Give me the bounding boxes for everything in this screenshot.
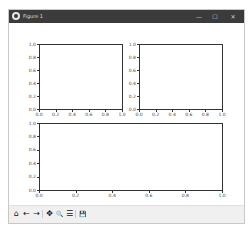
x-tick-mark (39, 110, 40, 112)
y-tick-label: 0.2 (126, 94, 136, 99)
x-tick-label: 0.4 (166, 112, 178, 117)
zoom-magnifier-icon[interactable]: 🔍 (55, 209, 64, 219)
y-tick-mark (37, 136, 39, 137)
x-tick-label: 0.4 (106, 193, 118, 198)
y-tick-mark (37, 83, 39, 84)
y-tick-label: 0.2 (26, 94, 36, 99)
x-tick-label: 0.0 (133, 112, 145, 117)
x-tick-label: 0.0 (33, 112, 45, 117)
minimize-button[interactable]: — (192, 10, 206, 23)
x-tick-label: 1.0 (216, 112, 228, 117)
x-tick-mark (139, 110, 140, 112)
window-title: Figure 1 (23, 12, 43, 20)
x-tick-mark (122, 110, 123, 112)
y-tick-mark (37, 70, 39, 71)
x-tick-mark (189, 110, 190, 112)
axes-top-left[interactable] (39, 44, 123, 110)
x-tick-label: 0.0 (33, 193, 45, 198)
toolbar-separator (42, 210, 43, 218)
y-tick-label: 0.6 (126, 68, 136, 73)
figure-window: Figure 1 — ☐ ✕ 0.00.20.40.60.81.00.00.20… (8, 9, 245, 224)
save-floppy-icon[interactable]: 💾 (78, 209, 87, 219)
y-tick-label: 1.0 (26, 42, 36, 47)
x-tick-label: 0.6 (83, 112, 95, 117)
x-tick-mark (105, 110, 106, 112)
y-tick-mark (37, 57, 39, 58)
matplotlib-app-icon (12, 12, 20, 20)
x-tick-label: 0.6 (143, 193, 155, 198)
x-tick-mark (39, 191, 40, 193)
y-tick-label: 0.8 (26, 134, 36, 139)
x-tick-label: 0.4 (66, 112, 78, 117)
x-tick-mark (156, 110, 157, 112)
y-tick-mark (37, 96, 39, 97)
y-tick-mark (137, 57, 139, 58)
x-tick-label: 1.0 (216, 193, 228, 198)
axes-top-right[interactable] (139, 44, 223, 110)
x-tick-mark (205, 110, 206, 112)
x-tick-mark (89, 110, 90, 112)
y-tick-label: 0.4 (126, 81, 136, 86)
x-tick-label: 0.2 (70, 193, 82, 198)
y-tick-label: 0.2 (26, 174, 36, 179)
x-tick-label: 0.2 (50, 112, 62, 117)
pan-move-icon[interactable]: ✥ (45, 209, 54, 219)
x-tick-mark (149, 191, 150, 193)
toolbar-separator (75, 210, 76, 218)
axes-bottom-wide[interactable] (39, 123, 223, 191)
x-tick-mark (112, 191, 113, 193)
forward-arrow-icon[interactable]: → (32, 209, 41, 219)
y-tick-mark (37, 150, 39, 151)
y-tick-mark (137, 70, 139, 71)
y-tick-label: 0.4 (26, 81, 36, 86)
y-tick-label: 0.6 (26, 68, 36, 73)
back-arrow-icon[interactable]: ← (22, 209, 31, 219)
x-tick-label: 0.2 (150, 112, 162, 117)
x-tick-mark (222, 191, 223, 193)
x-tick-label: 0.6 (183, 112, 195, 117)
x-tick-mark (72, 110, 73, 112)
y-tick-mark (137, 96, 139, 97)
x-tick-mark (222, 110, 223, 112)
y-tick-label: 0.4 (26, 161, 36, 166)
y-tick-mark (137, 44, 139, 45)
maximize-button[interactable]: ☐ (208, 10, 222, 23)
x-tick-label: 0.8 (199, 112, 211, 117)
y-tick-label: 0.0 (26, 107, 36, 112)
y-tick-mark (37, 163, 39, 164)
x-tick-label: 0.8 (179, 193, 191, 198)
configure-subplots-icon[interactable]: ☰ (65, 209, 74, 219)
y-tick-label: 1.0 (26, 121, 36, 126)
navigation-toolbar: ⌂ ← → ✥ 🔍 ☰ 💾 (9, 205, 244, 223)
x-tick-mark (76, 191, 77, 193)
y-tick-label: 0.0 (26, 188, 36, 193)
y-tick-label: 0.6 (26, 147, 36, 152)
close-button[interactable]: ✕ (226, 10, 240, 23)
y-tick-mark (37, 123, 39, 124)
x-tick-label: 1.0 (116, 112, 128, 117)
figure-canvas[interactable]: 0.00.20.40.60.81.00.00.20.40.60.81.00.00… (9, 23, 244, 207)
y-tick-label: 1.0 (126, 42, 136, 47)
y-tick-label: 0.0 (126, 107, 136, 112)
x-tick-mark (185, 191, 186, 193)
y-tick-label: 0.8 (26, 55, 36, 60)
title-bar[interactable]: Figure 1 — ☐ ✕ (9, 10, 244, 23)
x-tick-mark (56, 110, 57, 112)
x-tick-label: 0.8 (99, 112, 111, 117)
home-icon[interactable]: ⌂ (12, 209, 21, 219)
y-tick-label: 0.8 (126, 55, 136, 60)
y-tick-mark (37, 177, 39, 178)
x-tick-mark (172, 110, 173, 112)
y-tick-mark (37, 44, 39, 45)
y-tick-mark (137, 83, 139, 84)
